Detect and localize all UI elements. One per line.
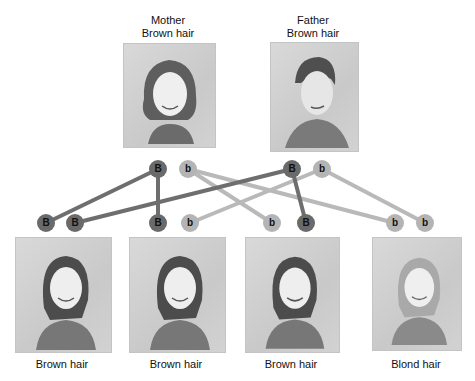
child4-portrait — [372, 237, 462, 351]
child2-portrait — [129, 237, 226, 353]
mother-allele-recessive: b — [179, 160, 197, 178]
mother-allele-dominant: B — [149, 160, 167, 178]
child1-trait: Brown hair — [12, 358, 112, 371]
girl-face-icon — [130, 238, 225, 352]
father-allele-dominant: B — [283, 160, 301, 178]
child3-allele-2: B — [297, 214, 315, 232]
girl-face-icon — [16, 238, 111, 352]
child4-allele-1: b — [386, 214, 404, 232]
child3-portrait — [245, 237, 340, 353]
child2-allele-1: B — [149, 214, 167, 232]
father-allele-recessive: b — [313, 160, 331, 178]
child4-trait: Blond hair — [366, 358, 466, 371]
child2-allele-2: b — [181, 214, 199, 232]
child2-trait: Brown hair — [126, 358, 226, 371]
child1-portrait — [15, 237, 112, 353]
child1-allele-2: B — [66, 214, 84, 232]
child3-allele-1: b — [263, 214, 281, 232]
line-father-b-child4 — [322, 169, 425, 223]
girl-face-icon — [246, 238, 339, 352]
blond-girl-face-icon — [373, 238, 461, 350]
child3-trait: Brown hair — [241, 358, 341, 371]
child4-allele-2: b — [416, 214, 434, 232]
child1-allele-1: B — [37, 214, 55, 232]
